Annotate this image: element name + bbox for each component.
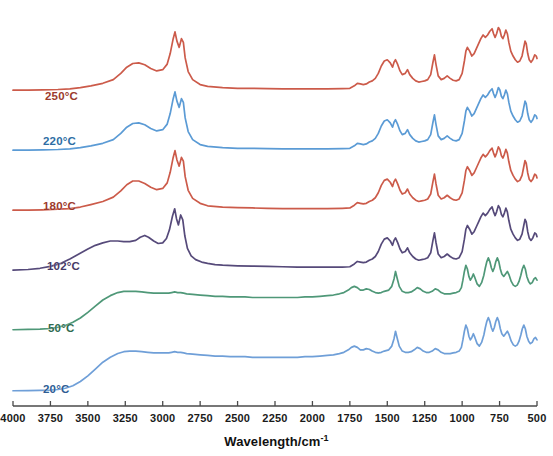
spectra-plot-area: [0, 0, 553, 456]
spectrum-curve-220c: [13, 88, 537, 151]
x-axis-title-text: Wavelength/cm: [224, 434, 320, 449]
x-tick-label-1750: 1750: [337, 412, 362, 424]
spectrum-curve-20c: [13, 318, 537, 391]
x-axis-title-exponent: -1: [320, 433, 328, 443]
x-tick-label-2750: 2750: [188, 412, 213, 424]
x-tick-label-2000: 2000: [300, 412, 325, 424]
x-tick-label-1500: 1500: [375, 412, 400, 424]
x-tick-label-3500: 3500: [75, 412, 100, 424]
curve-label-220c: 220°C: [43, 135, 76, 147]
x-tick-label-3250: 3250: [113, 412, 138, 424]
x-tick-label-750: 750: [490, 412, 509, 424]
curve-label-50c: 50°C: [48, 322, 75, 334]
x-tick-label-4000: 4000: [0, 412, 25, 424]
x-tick-label-1000: 1000: [450, 412, 475, 424]
spectrum-curve-102c: [13, 206, 537, 270]
spectra-curves: [13, 28, 537, 391]
x-tick-label-2500: 2500: [225, 412, 250, 424]
x-tick-label-500: 500: [528, 412, 547, 424]
ftir-spectra-chart: 4000375035003250300027502500225020001750…: [0, 0, 553, 456]
x-tick-label-1250: 1250: [412, 412, 437, 424]
x-axis-title: Wavelength/cm-1: [0, 433, 553, 449]
x-tick-label-3750: 3750: [38, 412, 63, 424]
curve-label-250c: 250°C: [45, 90, 78, 102]
x-tick-label-2250: 2250: [262, 412, 287, 424]
curve-label-102c: 102°C: [47, 260, 80, 272]
curve-label-20c: 20°C: [43, 383, 70, 395]
x-axis: [13, 401, 537, 406]
spectrum-curve-50c: [13, 258, 537, 330]
spectrum-curve-250c: [13, 28, 537, 91]
curve-label-180c: 180°C: [43, 200, 76, 212]
spectrum-curve-180c: [13, 147, 537, 210]
x-tick-label-3000: 3000: [150, 412, 175, 424]
